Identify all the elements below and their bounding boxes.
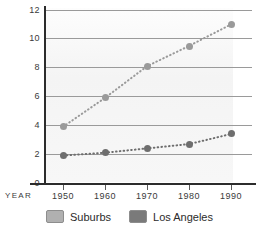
legend-swatch-los-angeles <box>129 210 147 223</box>
gridline-6 <box>46 96 252 97</box>
legend-label-suburbs: Suburbs <box>70 211 111 223</box>
gridline-2 <box>46 154 252 155</box>
x-axis-title: YEAR <box>5 191 32 200</box>
x-tick-mark-1970 <box>147 185 148 190</box>
legend-item-suburbs: Suburbs <box>46 210 111 223</box>
x-tick-label-1960: 1960 <box>85 191 125 201</box>
y-tick-8: 8 <box>12 62 40 72</box>
x-tick-mark-1960 <box>105 185 106 190</box>
y-tick-label: 2 <box>16 149 40 159</box>
x-tick-label-1980: 1980 <box>169 191 209 201</box>
population-line-chart: 12 10 8 6 4 2 0 1950 1960 1970 1980 1990… <box>0 0 259 233</box>
x-tick-label-1970: 1970 <box>127 191 167 201</box>
x-tick-mark-1950 <box>63 185 64 190</box>
y-tick-2: 2 <box>12 149 40 159</box>
y-tick-6: 6 <box>12 91 40 101</box>
y-tick-label: 8 <box>16 62 40 72</box>
y-tick-12: 12 <box>12 5 40 15</box>
chart-legend: Suburbs Los Angeles <box>0 210 259 223</box>
legend-item-los-angeles: Los Angeles <box>129 210 213 223</box>
y-tick-label: 10 <box>16 33 40 43</box>
gridline-8 <box>46 67 252 68</box>
x-tick-mark-1990 <box>231 185 232 190</box>
x-tick-label-1950: 1950 <box>43 191 83 201</box>
gridline-4 <box>46 125 252 126</box>
legend-swatch-suburbs <box>46 210 64 223</box>
gridline-12 <box>46 10 252 11</box>
x-tick-label-1990: 1990 <box>211 191 251 201</box>
y-axis-line <box>44 6 46 184</box>
y-tick-label: 12 <box>16 5 40 15</box>
plot-area-background <box>45 8 233 182</box>
gridline-10 <box>46 38 252 39</box>
x-tick-mark-1980 <box>189 185 190 190</box>
y-tick-4: 4 <box>12 120 40 130</box>
y-tick-10: 10 <box>12 33 40 43</box>
y-tick-label: 4 <box>16 120 40 130</box>
legend-label-los-angeles: Los Angeles <box>153 211 213 223</box>
y-tick-label: 6 <box>16 91 40 101</box>
